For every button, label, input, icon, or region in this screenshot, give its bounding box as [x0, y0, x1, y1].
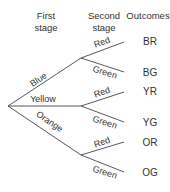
outcome-yr: YR	[143, 86, 157, 97]
header-second-stage-1: Second	[88, 10, 120, 21]
outcome-og: OG	[142, 167, 158, 178]
header-first-stage-2: stage	[34, 22, 57, 33]
label-orange-red: Red	[93, 135, 112, 150]
label-yellow: Yellow	[30, 94, 56, 104]
outcome-or: OR	[143, 137, 158, 148]
outcome-yg: YG	[143, 117, 158, 128]
header-outcomes: Outcomes	[126, 10, 170, 21]
header-second-stage-2: stage	[92, 22, 115, 33]
tree-diagram: First stage Second stage Outcomes Blue Y…	[0, 0, 170, 192]
label-orange: Orange	[34, 109, 64, 134]
outcome-br: BR	[143, 36, 157, 47]
label-orange-green: Green	[91, 164, 118, 181]
label-blue-green: Green	[91, 64, 118, 81]
outcome-bg: BG	[143, 67, 158, 78]
label-yellow-green: Green	[91, 114, 118, 131]
header-first-stage-1: First	[37, 10, 56, 21]
tree-svg: First stage Second stage Outcomes Blue Y…	[0, 0, 170, 192]
